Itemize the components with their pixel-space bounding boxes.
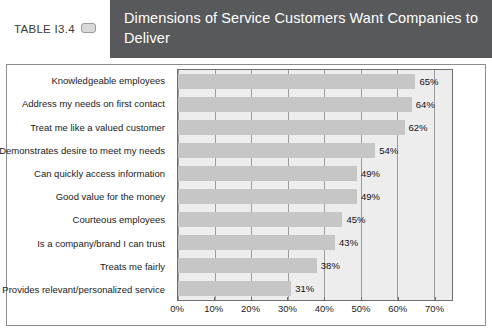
bar-row: 62%	[178, 116, 452, 139]
x-tick-mark	[398, 297, 399, 301]
table-number-area: TABLE I3.4	[0, 0, 110, 58]
x-tick-mark	[435, 297, 436, 301]
bar-value-label: 49%	[361, 191, 380, 202]
x-tick-label: 50%	[351, 303, 370, 314]
bar-row: 54%	[178, 139, 452, 162]
bar-value-label: 43%	[339, 237, 358, 248]
bar-value-label: 45%	[346, 214, 365, 225]
category-label: Can quickly access information	[7, 162, 171, 185]
table-number-label: TABLE I3.4	[14, 23, 75, 35]
bar-row: 49%	[178, 185, 452, 208]
bar-row: 64%	[178, 93, 452, 116]
category-label: Demonstrates desire to meet my needs	[7, 139, 171, 162]
bar-rows: 65%64%62%54%49%49%45%43%38%31%	[178, 70, 452, 300]
bar-value-label: 49%	[361, 168, 380, 179]
pill-icon	[81, 23, 96, 33]
bar-value-label: 62%	[409, 122, 428, 133]
title-band: Dimensions of Service Customers Want Com…	[110, 0, 492, 58]
chart-inner: Knowledgeable employeesAddress my needs …	[7, 65, 485, 325]
x-tick-mark	[214, 297, 215, 301]
bar-row: 49%	[178, 162, 452, 185]
bar	[178, 189, 357, 203]
bar	[178, 97, 412, 111]
x-tick-label: 0%	[170, 303, 184, 314]
page-title: Dimensions of Service Customers Want Com…	[124, 9, 480, 48]
x-tick-label: 20%	[241, 303, 260, 314]
bar	[178, 143, 375, 157]
category-label: Is a company/brand I can trust	[7, 231, 171, 254]
chart-frame: Knowledgeable employeesAddress my needs …	[6, 64, 486, 326]
bar	[178, 235, 335, 249]
bar-row: 43%	[178, 231, 452, 254]
category-label: Address my needs on first contact	[7, 92, 171, 115]
category-label: Provides relevant/personalized service	[7, 278, 171, 301]
bar	[178, 281, 291, 295]
bar	[178, 74, 415, 88]
bar-value-label: 38%	[321, 260, 340, 271]
category-label: Good value for the money	[7, 185, 171, 208]
bar-value-label: 31%	[295, 283, 314, 294]
bar	[178, 258, 317, 272]
category-label: Treats me fairly	[7, 255, 171, 278]
x-tick-mark	[177, 297, 178, 301]
x-tick-label: 40%	[315, 303, 334, 314]
bar-value-label: 64%	[416, 99, 435, 110]
x-tick-label: 30%	[278, 303, 297, 314]
x-tick-label: 10%	[204, 303, 223, 314]
x-tick-label: 60%	[388, 303, 407, 314]
x-tick-mark	[251, 297, 252, 301]
bar-value-label: 54%	[379, 145, 398, 156]
bar-value-label: 65%	[419, 76, 438, 87]
table-header: TABLE I3.4 Dimensions of Service Custome…	[0, 0, 492, 58]
bar-row: 38%	[178, 254, 452, 277]
x-axis: 0%10%20%30%40%50%60%70%	[177, 301, 453, 321]
bar	[178, 120, 405, 134]
category-label: Courteous employees	[7, 208, 171, 231]
category-label: Treat me like a valued customer	[7, 115, 171, 138]
x-tick-mark	[361, 297, 362, 301]
chart-page: TABLE I3.4 Dimensions of Service Custome…	[0, 0, 492, 332]
bar-row: 45%	[178, 208, 452, 231]
bar-row: 31%	[178, 277, 452, 300]
x-tick-label: 70%	[425, 303, 444, 314]
bar-row: 65%	[178, 70, 452, 93]
bar	[178, 166, 357, 180]
x-tick-mark	[287, 297, 288, 301]
bar	[178, 212, 342, 226]
category-label: Knowledgeable employees	[7, 69, 171, 92]
x-tick-mark	[324, 297, 325, 301]
plot-area: 65%64%62%54%49%49%45%43%38%31%	[177, 69, 453, 301]
category-axis-labels: Knowledgeable employeesAddress my needs …	[7, 69, 171, 301]
